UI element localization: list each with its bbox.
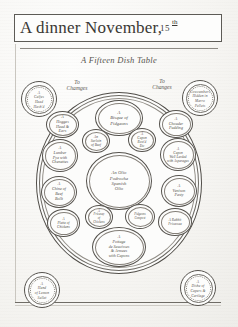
dish-pottage-de-saucisses: APottagede Saucisses& Armeeswith Capons xyxy=(92,227,146,267)
dish-pidgeons-compost: PidgeonsCompost xyxy=(125,204,155,229)
dish-label: APlatte ofChickens xyxy=(56,217,71,229)
dish-venison-pasty: AVenisonPasty xyxy=(161,175,197,207)
dish-label: AChine ofBeefBollt xyxy=(51,182,67,201)
title-underrule xyxy=(20,48,218,49)
corner-medallion-top-right: CowcumbersHidden inMarroPellets xyxy=(182,80,218,116)
dish-label: A RabbitFricassee xyxy=(167,218,183,226)
dish-capon-rosted: ACaponRost'dEtc xyxy=(128,128,156,152)
dish-capon-well-larded-with-asparagus: ACaponWell Lardedwith Asparagus xyxy=(160,138,196,171)
corner-medallion-bottom-left: AHandof LemonSallet xyxy=(24,272,60,308)
dish-chouder-pudding: AChouderPudding xyxy=(159,110,193,138)
dish-label: AnSurloinof Beef xyxy=(90,135,102,147)
corner-medallion-top-left: ACalfesHeadHash'd xyxy=(21,81,57,117)
engraving-page: A dinner November, 15 th A Fifteen Dish … xyxy=(0,0,238,327)
dish-lumber-pye-with-chenettes: ALumberPye withChenettes xyxy=(42,139,78,172)
corner-medallion-bottom-right: ADishe ofCapers &Cartlage xyxy=(180,270,216,306)
dish-label: AChouderPudding xyxy=(168,117,184,131)
dish-hogges-head-and-ears: AHoggesHead &Ears xyxy=(46,111,79,138)
to-change-label-right: ToChanges xyxy=(142,78,182,91)
dish-platte-of-chickens: APlatte ofChickens xyxy=(47,209,80,237)
dish-label: PidgeonsCompost xyxy=(133,213,147,220)
dish-label: ABisque ofPidgeons xyxy=(109,110,129,126)
to-change-label-left: ToChamges xyxy=(57,79,97,92)
dish-rabbit-fricassee: A RabbitFricassee xyxy=(158,208,192,236)
title-day-number: 15 xyxy=(160,24,170,32)
dish-olio-podrocha-spanish-olio: An OlioPodrochaSpanishOlio xyxy=(86,152,152,210)
dish-label: APottagede Saucisses& Armeeswith Capons xyxy=(108,235,131,259)
dish-label: An OlioPodrochaSpanishOlio xyxy=(109,170,129,192)
title-ordinal-suffix: th xyxy=(172,18,177,26)
page-title: A dinner November, xyxy=(20,16,220,40)
table-subtitle: A Fifteen Dish Table xyxy=(0,55,238,65)
dish-label: AFricaseyofChickens xyxy=(92,210,105,224)
medallion-label: ADishe ofCapers &Cartlage xyxy=(185,271,211,307)
dish-surloin-of-beef: AnSurloinof Beef xyxy=(82,129,110,153)
dish-label: ACaponWell Lardedwith Asparagus xyxy=(166,147,190,163)
medallion-label: ACalfesHeadHash'd xyxy=(26,82,52,118)
dish-fricasey-of-chickens: AFricaseyofChickens xyxy=(85,205,113,229)
page-left-rule xyxy=(15,44,16,302)
dish-label: AHoggesHead &Ears xyxy=(55,115,70,134)
dish-chine-of-beef-bollt: AChine ofBeefBollt xyxy=(41,176,77,208)
dish-label: AVenisonPasty xyxy=(172,184,187,198)
medallion-label: AHandof LemonSallet xyxy=(29,273,55,309)
dish-label: ACaponRost'dEtc xyxy=(136,132,147,148)
dish-label: ALumberPye withChenettes xyxy=(51,146,69,165)
medallion-label: CowcumbersHidden inMarroPellets xyxy=(187,81,213,117)
